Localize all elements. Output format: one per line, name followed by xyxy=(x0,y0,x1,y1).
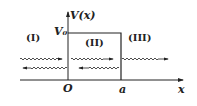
x-axis-label: x xyxy=(178,84,185,95)
barrier-height-label: V₀ xyxy=(54,26,67,37)
region-III-label: (III) xyxy=(128,33,152,43)
region-II-label: (II) xyxy=(85,38,104,48)
wave-region-II-right xyxy=(71,58,113,60)
wave-region-I-incident xyxy=(20,58,62,60)
region-I-label: (I) xyxy=(26,33,40,43)
y-axis-label: V(x) xyxy=(70,10,96,21)
origin-label: O xyxy=(63,83,73,94)
barrier-end-label: a xyxy=(119,84,126,95)
wave-region-I-reflected xyxy=(23,67,67,69)
potential-barrier-diagram xyxy=(0,0,197,106)
wave-region-II-left xyxy=(79,67,119,69)
wave-region-III-transmitted xyxy=(122,58,168,60)
